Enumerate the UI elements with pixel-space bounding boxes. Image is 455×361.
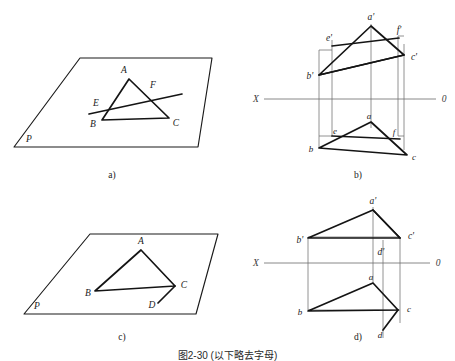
panel-d-axis-label-o: 0 xyxy=(436,258,441,268)
panel-d-label-a: a xyxy=(369,272,374,282)
panel-c-group: A B C D P c) xyxy=(24,234,218,343)
panel-c-label-P: P xyxy=(33,301,40,311)
panel-b-horizontal-line-ef xyxy=(332,136,400,139)
panel-a-label-P: P xyxy=(25,134,32,144)
panel-b-label-c-prime: c' xyxy=(411,52,418,62)
panel-c-triangle-abc xyxy=(95,250,175,291)
panel-d-horizontal-triangle xyxy=(308,283,398,311)
panel-b-label-f: f xyxy=(393,127,397,137)
panel-d-caption: d) xyxy=(354,332,362,343)
panel-d-label-c: c xyxy=(407,304,411,314)
panel-a-label-A: A xyxy=(120,65,127,75)
panel-d-label-c-prime: c' xyxy=(408,231,415,241)
panel-c-label-D: D xyxy=(148,300,156,310)
panel-d-axis-label-x: X xyxy=(252,258,260,268)
panel-a-label-F: F xyxy=(149,80,156,90)
panel-b-label-c: c xyxy=(412,152,416,162)
technical-drawing-canvas: A E F B C P a) X 0 xyxy=(0,0,455,361)
panel-b-axis-label-x: X xyxy=(252,94,260,104)
figure-root: A E F B C P a) X 0 xyxy=(0,0,455,361)
panel-b-label-e-prime: e' xyxy=(326,33,333,43)
panel-d-label-b: b xyxy=(298,307,303,317)
panel-d-label-a-prime: a' xyxy=(370,196,378,206)
panel-d-frontal-edge-ac xyxy=(373,210,400,238)
panel-b-label-b-prime: b' xyxy=(307,71,315,81)
panel-d-group: X 0 a' b' c' d' a b xyxy=(252,196,441,343)
panel-d-label-d: d xyxy=(378,330,383,340)
panel-d-label-b-prime: b' xyxy=(297,235,305,245)
panel-b-label-f-prime: f' xyxy=(397,25,403,35)
panel-b-caption: b) xyxy=(354,170,362,181)
panel-c-segment-cd xyxy=(158,286,175,303)
panel-b-axis-label-o: 0 xyxy=(442,94,447,104)
panel-a-label-C: C xyxy=(173,118,180,128)
panel-a-label-B: B xyxy=(90,119,96,129)
panel-c-label-C: C xyxy=(181,280,188,290)
panel-c-plane-outline xyxy=(24,234,218,314)
panel-a-group: A E F B C P a) xyxy=(14,58,212,181)
panel-d-label-d-prime: d' xyxy=(378,247,386,257)
panel-c-caption: c) xyxy=(118,332,125,343)
panel-a-line-ef xyxy=(89,94,182,114)
panel-c-label-A: A xyxy=(137,236,144,246)
figure-caption: 图2-30 (以下略去字母) xyxy=(0,349,455,361)
panel-b-label-a: a xyxy=(367,111,372,121)
panel-c-label-B: B xyxy=(85,288,91,298)
panel-b-label-b: b xyxy=(309,144,314,154)
panel-b-label-a-prime: a' xyxy=(368,12,376,22)
panel-b-label-e: e xyxy=(333,126,337,136)
panel-d-horizontal-segment-cd xyxy=(383,310,398,330)
panel-b-group: X 0 a' e' xyxy=(252,12,447,181)
panel-a-caption: a) xyxy=(108,170,115,181)
panel-a-label-E: E xyxy=(92,98,99,108)
